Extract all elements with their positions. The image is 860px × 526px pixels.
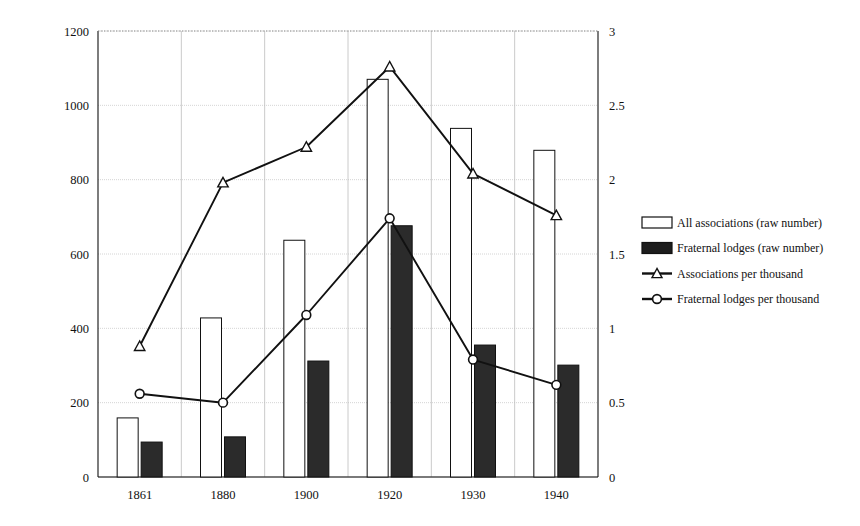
y-right-tick-1.5: 1.5 <box>609 248 625 262</box>
legend-label: Associations per thousand <box>677 267 803 281</box>
legend-marker-circle <box>653 295 662 304</box>
legend-swatch-open-square <box>642 217 672 228</box>
y-axis-left-ticks: 020040060080010001200 <box>64 25 89 485</box>
legend-label: Fraternal lodges per thousand <box>677 292 819 306</box>
y-right-tick-1: 1 <box>609 322 615 336</box>
bar-all-associations-1880 <box>201 318 222 477</box>
bar-all-associations-1930 <box>451 128 472 477</box>
marker-triangle-1861 <box>134 341 144 350</box>
marker-circle-1880 <box>219 398 228 407</box>
y-left-tick-600: 600 <box>70 248 89 262</box>
bar-all-associations-1940 <box>534 150 555 477</box>
combo-chart: 020040060080010001200 00.511.522.53 1861… <box>0 0 860 526</box>
y-left-tick-1000: 1000 <box>64 99 89 113</box>
marker-circle-1861 <box>135 389 144 398</box>
bar-fraternal-lodges-1861 <box>141 442 162 477</box>
x-tick-1880: 1880 <box>211 488 236 502</box>
marker-circle-1920 <box>385 214 394 223</box>
bar-all-associations-1900 <box>284 240 305 477</box>
bar-all-associations-1861 <box>117 418 138 477</box>
bar-fraternal-lodges-1940 <box>558 365 579 477</box>
legend-item-2: Fraternal lodges (raw number) <box>642 241 823 255</box>
y-right-tick-0: 0 <box>609 471 615 485</box>
y-right-tick-2.5: 2.5 <box>609 99 625 113</box>
marker-circle-1930 <box>469 355 478 364</box>
bar-fraternal-lodges-1900 <box>308 361 329 477</box>
chart-container: 020040060080010001200 00.511.522.53 1861… <box>0 0 860 526</box>
y-left-tick-1200: 1200 <box>64 25 89 39</box>
x-axis-ticks: 186118801900192019301940 <box>127 488 569 502</box>
x-tick-1940: 1940 <box>544 488 569 502</box>
y-left-tick-800: 800 <box>70 173 89 187</box>
y-left-tick-200: 200 <box>70 396 89 410</box>
y-left-tick-0: 0 <box>83 471 89 485</box>
chart-legend: All associations (raw number)Fraternal l… <box>642 216 823 307</box>
marker-triangle-1880 <box>218 177 228 186</box>
gridlines <box>98 31 598 477</box>
marker-triangle-1920 <box>384 61 394 70</box>
x-tick-1930: 1930 <box>461 488 486 502</box>
y-left-tick-400: 400 <box>70 322 89 336</box>
y-right-tick-3: 3 <box>609 25 615 39</box>
legend-swatch-filled-square <box>642 243 672 254</box>
bar-fraternal-lodges-1880 <box>225 437 246 477</box>
legend-label: All associations (raw number) <box>677 216 822 230</box>
y-right-tick-2: 2 <box>609 173 615 187</box>
y-axis-right-ticks: 00.511.522.53 <box>609 25 625 485</box>
x-tick-1920: 1920 <box>377 488 402 502</box>
bar-all-associations-1920 <box>367 79 388 477</box>
marker-circle-1940 <box>552 380 561 389</box>
y-right-tick-0.5: 0.5 <box>609 396 625 410</box>
marker-circle-1900 <box>302 311 311 320</box>
x-tick-1861: 1861 <box>127 488 152 502</box>
legend-label: Fraternal lodges (raw number) <box>677 241 823 255</box>
x-tick-1900: 1900 <box>294 488 319 502</box>
legend-item-3: Associations per thousand <box>642 267 803 281</box>
bar-fraternal-lodges-1920 <box>391 226 412 477</box>
legend-item-1: All associations (raw number) <box>642 216 822 230</box>
legend-item-4: Fraternal lodges per thousand <box>642 292 819 306</box>
